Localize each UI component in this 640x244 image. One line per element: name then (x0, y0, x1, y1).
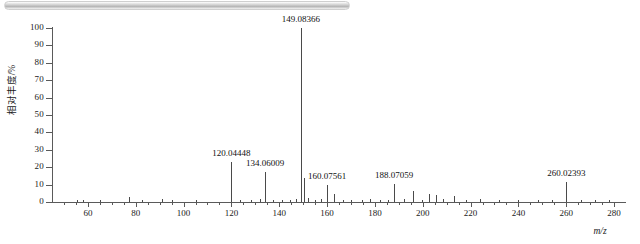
spectrum-peak (404, 199, 405, 202)
y-tick-label: 30 (0, 145, 44, 154)
x-tick-label: 100 (164, 208, 204, 218)
x-tick-minor (494, 203, 495, 205)
spectrum-peak (273, 200, 274, 202)
x-tick-major (327, 203, 328, 207)
x-tick-minor (530, 203, 531, 205)
peak-label: 120.04448 (212, 148, 250, 158)
x-tick-minor (411, 203, 412, 205)
spectrum-peak (499, 200, 500, 202)
x-tick-minor (291, 203, 292, 205)
x-axis-title: m/z (580, 226, 620, 236)
x-tick-label: 260 (546, 208, 586, 218)
spectrum-peak (308, 198, 309, 202)
x-tick-minor (100, 203, 101, 205)
x-tick-minor (196, 203, 197, 205)
spectrum-peak (282, 200, 283, 202)
x-tick-label: 220 (451, 208, 491, 218)
spectrum-peak (290, 200, 291, 202)
x-tick-minor (112, 203, 113, 205)
x-tick-minor (483, 203, 484, 205)
x-tick-minor (64, 203, 65, 205)
spectrum-peak (454, 196, 455, 202)
mass-spectrum-figure: 0102030405060708090100 60801001201401601… (0, 0, 640, 244)
spectrum-peak (609, 200, 610, 202)
x-tick-label: 160 (307, 208, 347, 218)
spectrum-peak (315, 200, 316, 202)
x-tick-minor (267, 203, 268, 205)
spectrum-peak (552, 200, 553, 202)
x-tick-major (88, 203, 89, 207)
x-tick-minor (303, 203, 304, 205)
x-tick-minor (590, 203, 591, 205)
spectrum-peak (581, 200, 582, 202)
x-tick-minor (506, 203, 507, 205)
x-tick-major (518, 203, 519, 207)
x-tick-major (614, 203, 615, 207)
spectrum-peak (83, 200, 84, 202)
x-tick-major (136, 203, 137, 207)
peak-label: 149.08366 (282, 14, 320, 24)
spectrum-peak (304, 178, 305, 202)
x-tick-minor (76, 203, 77, 205)
x-tick-minor (315, 203, 316, 205)
spectrum-peak (351, 200, 352, 202)
spectrum-peak (301, 28, 302, 202)
x-tick-minor (207, 203, 208, 205)
spectrum-peak (251, 200, 252, 202)
spectrum-peak (413, 191, 414, 202)
x-tick-major (375, 203, 376, 207)
spectrum-peak (380, 200, 381, 202)
x-tick-minor (148, 203, 149, 205)
spectrum-peak (162, 199, 163, 202)
spectrum-peak (436, 195, 437, 202)
y-tick-label: 90 (0, 40, 44, 49)
y-axis-title: 相对丰度/% (7, 60, 17, 120)
spectrum-peak (566, 182, 567, 202)
x-tick-label: 180 (355, 208, 395, 218)
x-tick-minor (602, 203, 603, 205)
spectrum-peak (142, 200, 143, 202)
spectrum-peak (370, 199, 371, 202)
x-tick-minor (399, 203, 400, 205)
spectrum-peak (100, 200, 101, 202)
x-tick-minor (542, 203, 543, 205)
spectrum-peak (538, 200, 539, 202)
spectrum-peak (296, 199, 297, 202)
y-tick-label: 40 (0, 127, 44, 136)
x-tick-label: 140 (259, 208, 299, 218)
x-tick-minor (160, 203, 161, 205)
x-tick-major (471, 203, 472, 207)
x-tick-label: 60 (68, 208, 108, 218)
x-tick-minor (554, 203, 555, 205)
x-tick-major (423, 203, 424, 207)
spectrum-peak (327, 185, 328, 202)
x-tick-minor (578, 203, 579, 205)
spectrum-peak (240, 200, 241, 202)
peak-label: 188.07059 (375, 170, 413, 180)
spectrum-peak (343, 200, 344, 202)
spectrum-peak (260, 199, 261, 202)
x-tick-major (279, 203, 280, 207)
spectrum-peak (265, 172, 266, 202)
x-tick-label: 200 (403, 208, 443, 218)
y-tick-label: 20 (0, 162, 44, 171)
x-tick-minor (243, 203, 244, 205)
spectrum-peak (595, 200, 596, 202)
x-tick-minor (255, 203, 256, 205)
x-tick-minor (124, 203, 125, 205)
x-tick-minor (435, 203, 436, 205)
x-tick-minor (459, 203, 460, 205)
x-tick-minor (447, 203, 448, 205)
x-tick-minor (363, 203, 364, 205)
x-tick-minor (219, 203, 220, 205)
spectrum-peak (480, 199, 481, 202)
spectrum-peak (518, 200, 519, 202)
x-tick-label: 120 (211, 208, 251, 218)
spectrum-peak (429, 194, 430, 202)
spectrum-peak (231, 162, 232, 202)
spectrum-peak (362, 200, 363, 202)
peak-label: 260.02393 (547, 168, 585, 178)
spectrum-peak (172, 200, 173, 202)
x-tick-label: 280 (594, 208, 634, 218)
peak-label: 160.07561 (308, 171, 346, 181)
